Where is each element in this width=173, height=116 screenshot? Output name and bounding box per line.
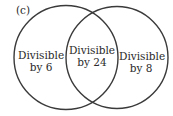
set-label-divisible-by-6: Divisible by 6 xyxy=(18,49,64,73)
set-label-divisible-by-8: Divisible by 8 xyxy=(119,50,163,74)
venn-diagram: (c) Divisible by 6 Divisible by 24 Divis… xyxy=(0,0,173,116)
set-label-line2: by 6 xyxy=(18,61,64,73)
intersection-label-line1: Divisible xyxy=(68,44,116,56)
set-label-line1: Divisible xyxy=(119,50,163,62)
panel-label: (c) xyxy=(16,4,30,16)
set-label-line1: Divisible xyxy=(18,49,64,61)
set-label-line2: by 8 xyxy=(119,62,163,74)
intersection-label-divisible-by-24: Divisible by 24 xyxy=(68,44,116,68)
intersection-label-line2: by 24 xyxy=(68,56,116,68)
